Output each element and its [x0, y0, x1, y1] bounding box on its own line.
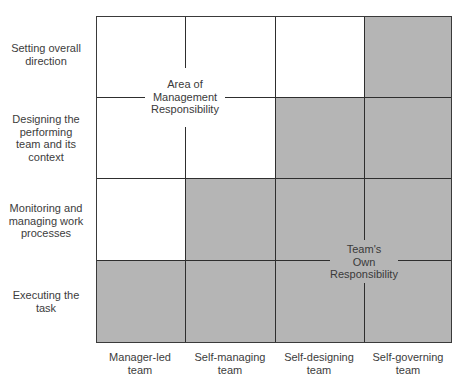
grid-hline-2 [96, 178, 452, 179]
col-label-self-designing: Self-designing team [274, 351, 364, 376]
team-authority-matrix: Setting overall direction Designing the … [0, 0, 469, 389]
cell-r1-c2 [275, 97, 364, 178]
cell-r0-c2 [275, 16, 364, 97]
cell-r2-c0 [96, 178, 185, 260]
row-label-setting-direction: Setting overall direction [4, 42, 88, 67]
grid-vline-3 [364, 16, 365, 343]
grid-vline-1 [185, 16, 186, 343]
row-label-monitoring-processes: Monitoring and managing work processes [4, 202, 88, 240]
row-label-designing-team: Designing the performing team and its co… [4, 113, 88, 163]
cell-r1-c3 [364, 97, 452, 178]
grid-vline-2 [275, 16, 276, 343]
region-label-team-own-responsibility: Team's Own Responsibility [314, 243, 414, 281]
region-label-management-responsibility: Area of Management Responsibility [135, 78, 235, 116]
row-label-executing-task: Executing the task [4, 289, 88, 314]
cell-r0-c3 [364, 16, 452, 97]
col-label-manager-led: Manager-led team [95, 351, 185, 376]
cell-r3-c0 [96, 260, 185, 343]
cell-r3-c1 [185, 260, 275, 343]
col-label-self-managing: Self-managing team [185, 351, 275, 376]
cell-r2-c1 [185, 178, 275, 260]
col-label-self-governing: Self-governing team [363, 351, 453, 376]
